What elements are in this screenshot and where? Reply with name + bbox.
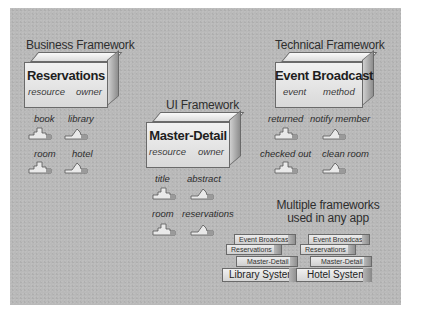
event-broadcast-box-label: Event Broadcast <box>275 68 363 83</box>
layer-master-detail: Master-Detail <box>236 256 298 267</box>
event-plug-icon <box>274 160 298 174</box>
master-detail-box-label: Master-Detail <box>146 128 230 143</box>
event-port: event <box>283 86 306 97</box>
technical-framework-heading: Technical Framework <box>275 38 385 52</box>
layer-master-detail: Master-Detail <box>310 256 372 267</box>
event-broadcast-framework-box: Event Broadcast event method <box>275 52 379 108</box>
plug-label-library: library <box>68 113 94 124</box>
resource-plug-icon <box>152 222 176 236</box>
method-plug-icon <box>322 160 346 174</box>
method-plug-icon <box>322 126 346 140</box>
resource-port: resource <box>28 86 65 97</box>
reservations-framework-box: Reservations resource owner <box>24 52 124 108</box>
plug-label-checked-out: checked out <box>260 148 311 159</box>
resource-plug-icon <box>28 126 52 140</box>
owner-port: owner <box>76 86 102 97</box>
diagram-panel: Business Framework Reservations resource… <box>10 8 401 305</box>
plug-label-room: room <box>152 208 174 219</box>
plug-label-notify-member: notify member <box>310 113 370 124</box>
resource-plug-icon <box>28 160 52 174</box>
library-system-base: Library System <box>222 268 298 282</box>
owner-plug-icon <box>64 160 88 174</box>
resource-port: resource <box>149 146 186 157</box>
owner-plug-icon <box>190 186 214 200</box>
plug-label-returned: returned <box>268 113 303 124</box>
composition-heading-line1: Multiple frameworks <box>268 198 388 212</box>
plug-label-abstract: abstract <box>187 173 221 184</box>
master-detail-framework-box: Master-Detail resource owner <box>146 112 246 168</box>
plug-label-reservations: reservations <box>182 208 234 219</box>
plug-label-hotel: hotel <box>72 148 93 159</box>
layer-reservations: Reservations <box>226 244 282 255</box>
owner-port: owner <box>198 146 224 157</box>
plug-label-title: title <box>155 173 170 184</box>
hotel-system-base: Hotel System <box>296 268 372 282</box>
plug-label-clean-room: clean room <box>322 148 369 159</box>
composition-heading-line2: used in any app <box>268 211 388 225</box>
method-port: method <box>323 86 355 97</box>
layer-reservations: Reservations <box>300 244 356 255</box>
reservations-box-label: Reservations <box>24 68 108 83</box>
resource-plug-icon <box>152 186 176 200</box>
event-plug-icon <box>274 126 298 140</box>
plug-label-book: book <box>34 113 55 124</box>
owner-plug-icon <box>64 126 88 140</box>
plug-label-room: room <box>34 148 56 159</box>
ui-framework-heading: UI Framework <box>166 98 239 112</box>
owner-plug-icon <box>190 222 214 236</box>
